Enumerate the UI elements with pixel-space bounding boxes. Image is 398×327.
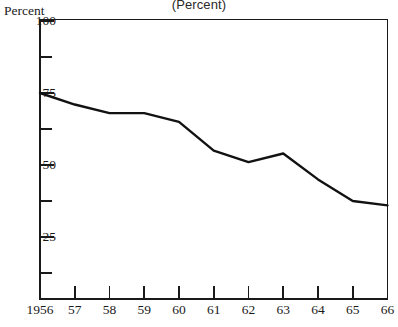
data-series-layer xyxy=(0,0,398,327)
data-series-line xyxy=(40,93,388,205)
line-chart: (Percent) Percent 100755025 195657585960… xyxy=(0,0,398,327)
